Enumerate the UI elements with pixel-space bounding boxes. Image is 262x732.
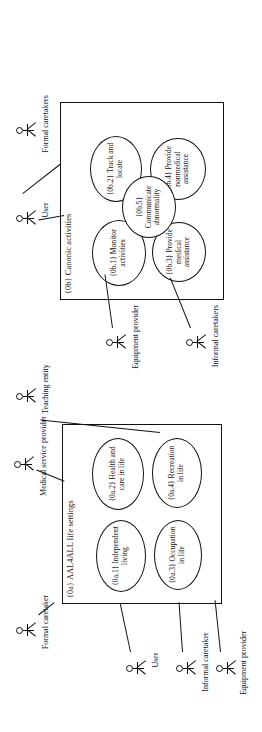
package-0b-title: {0b} Canonic activities <box>64 214 73 294</box>
use-case-0a-3[interactable]: {0a.3} Occupation in life <box>154 520 202 590</box>
association-user-a <box>120 603 131 652</box>
use-case-0b-3-label: {0b.3} Provide medical assistance <box>166 226 193 278</box>
actor-head-icon <box>106 339 113 346</box>
actor-head-icon <box>186 339 193 346</box>
use-case-0a-2-label: {0a.2} Health and care in life <box>109 442 127 506</box>
actor-medical-service-provider-label: Medical service provider <box>40 414 49 498</box>
use-case-0a-4[interactable]: {0a.4} Recreation in life <box>152 438 202 508</box>
actor-equipment-provider-a-label: Equipment provider <box>240 626 249 700</box>
actor-head-icon <box>16 627 23 634</box>
actor-head-icon <box>16 215 23 222</box>
actor-formal-caretakers[interactable] <box>16 110 40 136</box>
actor-user-a-label: User <box>152 640 161 680</box>
use-case-0a-4-label: {0a.4} Recreation in life <box>168 442 186 504</box>
association-informal-caretaker <box>179 602 183 652</box>
actor-head-icon <box>16 127 23 134</box>
use-case-0b-5-label: {0b.5} Communicate abnormality <box>136 180 163 234</box>
use-case-diagram: {0a} AAL4ALL life settings {0a.1} Indepe… <box>0 0 262 732</box>
use-case-0b-2-label: {0b.2} Track and locate <box>107 140 125 198</box>
actor-formal-caretaker-label: Formal caretaker <box>42 590 51 654</box>
use-case-0a-3-label: {0a.3} Occupation in life <box>169 524 187 586</box>
package-0a-title: {0a} AAL4ALL life settings <box>66 500 75 598</box>
actor-informal-caretaker[interactable] <box>176 648 200 674</box>
association-equipment-provider-a <box>215 600 221 652</box>
actor-teaching-entity[interactable] <box>16 376 40 402</box>
actor-user-b[interactable] <box>16 198 40 224</box>
actor-formal-caretaker[interactable] <box>16 610 40 636</box>
actor-teaching-entity-label: Teaching entity <box>42 358 51 420</box>
actor-equipment-provider-b[interactable] <box>106 322 130 348</box>
use-case-0a-1[interactable]: {0a.1} Independent living <box>96 520 146 592</box>
actor-head-icon <box>126 665 133 672</box>
actor-informal-caretaker-label: Informal caretaker <box>202 626 211 698</box>
use-case-0b-5[interactable]: {0b.5} Communicate abnormality <box>122 176 176 238</box>
actor-informal-caretakers-label: Informal caretakers <box>212 298 221 374</box>
actor-formal-caretakers-label: Formal caretakers <box>42 86 51 162</box>
actor-equipment-provider-b-label: Equipment provider <box>132 300 141 374</box>
use-case-0a-1-label: {0a.1} Independent living <box>112 524 130 588</box>
use-case-0a-2[interactable]: {0a.2} Health and care in life <box>92 438 144 510</box>
actor-head-icon <box>216 665 223 672</box>
actor-user-b-label: User <box>42 190 51 230</box>
actor-head-icon <box>16 393 23 400</box>
actor-head-icon <box>14 461 21 468</box>
package-0a-boundary <box>62 424 222 604</box>
actor-head-icon <box>176 665 183 672</box>
actor-medical-service-provider[interactable] <box>14 444 38 470</box>
use-case-0b-1-label: {0b.1} Monitor activities <box>110 224 128 282</box>
